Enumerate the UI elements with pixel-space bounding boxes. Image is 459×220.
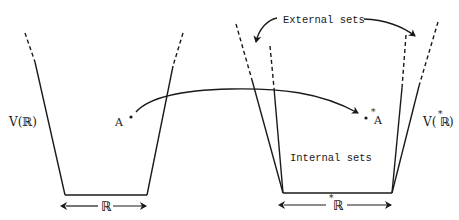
left-universe-right-edge <box>147 66 173 195</box>
left-universe-vr <box>25 33 183 206</box>
star-map-arrow <box>136 89 358 113</box>
external-sets-arrow-right <box>364 19 415 36</box>
right-universe-label-suffix: ) <box>449 115 454 129</box>
right-outer-right-edge <box>392 86 419 193</box>
right-outer-left-edge-dashed <box>236 24 252 80</box>
external-sets-label: External sets <box>283 14 365 26</box>
external-sets-arrow-left <box>256 18 277 42</box>
right-inner-right-edge-dashed <box>402 35 406 88</box>
right-outer-right-edge-dashed <box>419 22 438 86</box>
point-star-a-label: A <box>373 114 383 127</box>
right-universe-label: V( * ℝ ) <box>422 109 454 129</box>
left-universe-label: V(ℝ) <box>8 115 37 129</box>
left-universe-left-edge-dashed <box>25 33 35 62</box>
point-a-dot <box>129 115 132 118</box>
right-inner-left-edge-dashed <box>270 46 274 88</box>
right-universe-vstar-r <box>236 18 438 205</box>
internal-sets-label: Internal sets <box>290 152 372 164</box>
right-inner-right-edge <box>392 88 402 193</box>
left-base-label: ℝ <box>101 199 112 214</box>
left-universe-right-edge-dashed <box>173 33 183 66</box>
point-star-a-dot <box>364 116 367 119</box>
nonstandard-universe-diagram: V(ℝ) ℝ A External sets Internal sets * A <box>0 0 459 220</box>
point-a-label: A <box>114 116 124 129</box>
right-universe-label-prefix: V( <box>422 115 436 129</box>
left-universe-left-edge <box>35 62 65 195</box>
right-base-label: ℝ <box>333 198 344 213</box>
